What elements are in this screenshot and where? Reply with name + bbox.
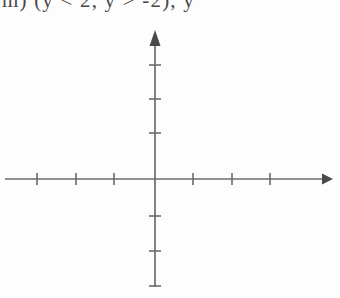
- x-axis-arrow-icon: [322, 174, 333, 185]
- y-axis-arrow-icon: [150, 30, 161, 46]
- coordinate-axes-graph: [0, 0, 340, 298]
- worksheet-page: m) (y < 2, y > -2), y: [0, 0, 340, 298]
